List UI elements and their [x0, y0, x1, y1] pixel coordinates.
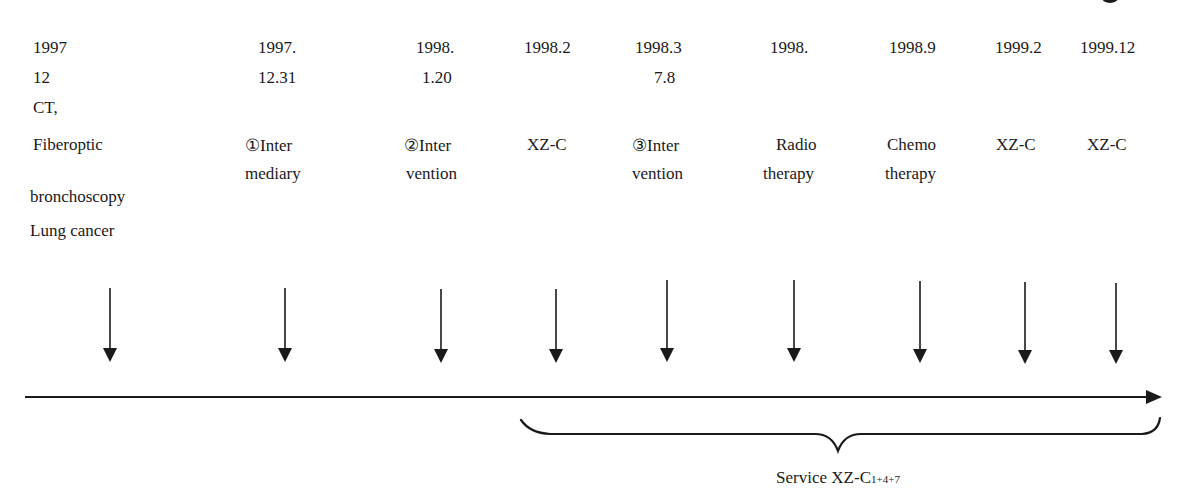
timeline-graphics: [0, 0, 1187, 494]
down-arrow-icon: [434, 289, 448, 363]
curly-brace: [521, 418, 1160, 451]
brace-label: Service XZ-C1+4+7: [776, 468, 900, 488]
time-axis-arrow: [25, 390, 1162, 404]
brace-label-text: Service XZ-C: [776, 468, 871, 487]
brace-label-subscript: 1+4+7: [871, 473, 900, 485]
down-arrow-icon: [1018, 282, 1032, 364]
down-arrow-icon: [660, 280, 674, 362]
down-arrow-icon: [787, 280, 801, 362]
down-arrow-icon: [103, 288, 117, 362]
down-arrow-icon: [1109, 283, 1123, 364]
down-arrow-icon: [913, 281, 927, 363]
down-arrow-icon: [278, 288, 292, 362]
down-arrow-icon: [549, 289, 563, 363]
